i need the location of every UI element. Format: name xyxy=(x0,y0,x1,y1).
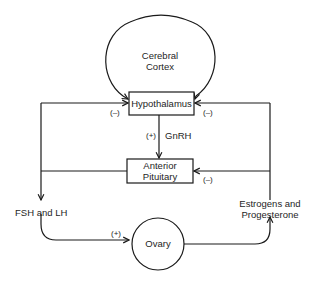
cortex-arrow-right xyxy=(195,96,196,99)
neg-hypo-left: (–) xyxy=(110,107,120,118)
cortex-label: Cerebral Cortex xyxy=(130,50,190,72)
gnrh-sign: (+) xyxy=(146,130,156,141)
neg-pituitary-right: (–) xyxy=(203,174,213,185)
hormones-label-line1: Estrogens and xyxy=(236,198,304,209)
pituitary-label-line2: Pituitary xyxy=(127,171,193,182)
pituitary-label: Anterior Pituitary xyxy=(127,160,193,182)
cortex-arrow-left xyxy=(123,96,128,99)
hormones-label: Estrogens and Progesterone xyxy=(236,198,304,220)
ovary-to-hormones xyxy=(184,217,270,244)
neg-hypo-right: (–) xyxy=(203,107,213,118)
pituitary-label-line1: Anterior xyxy=(127,160,193,171)
ovary-input-sign: (+) xyxy=(111,228,121,239)
ovary-label: Ovary xyxy=(132,238,184,249)
cortex-label-line2: Cortex xyxy=(130,61,190,72)
cortex-label-line1: Cerebral xyxy=(130,50,190,61)
hormones-label-line2: Progesterone xyxy=(236,209,304,220)
gnrh-label: GnRH xyxy=(165,130,191,141)
fsh-lh-label: FSH and LH xyxy=(15,207,67,218)
hypothalamus-label: Hypothalamus xyxy=(129,98,194,109)
